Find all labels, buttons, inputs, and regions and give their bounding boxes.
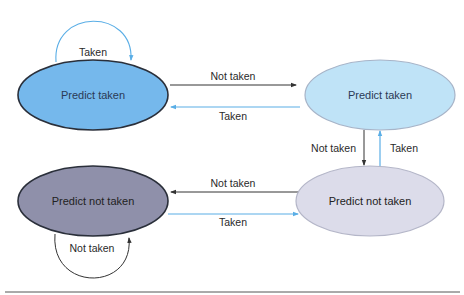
transition-label: Taken bbox=[79, 46, 107, 58]
branch-predictor-state-diagram: Taken Not taken Taken Not taken Taken No… bbox=[0, 0, 464, 295]
state-strongly-taken: Predict taken bbox=[18, 60, 168, 130]
state-label: Predict not taken bbox=[52, 195, 135, 207]
state-weakly-taken: Predict taken bbox=[305, 60, 455, 130]
state-weakly-not-taken: Predict not taken bbox=[296, 166, 444, 236]
transition-label: Taken bbox=[219, 216, 247, 228]
state-label: Predict taken bbox=[61, 89, 125, 101]
transition-label: Not taken bbox=[70, 242, 115, 254]
transition-label: Taken bbox=[390, 142, 418, 154]
state-label: Predict not taken bbox=[329, 195, 412, 207]
transition-label: Not taken bbox=[211, 70, 256, 82]
transition-label: Not taken bbox=[311, 142, 356, 154]
state-strongly-not-taken: Predict not taken bbox=[18, 166, 168, 236]
transition-label: Not taken bbox=[211, 177, 256, 189]
transition-label: Taken bbox=[219, 110, 247, 122]
state-label: Predict taken bbox=[348, 89, 412, 101]
self-loop-not-taken-arrow bbox=[55, 234, 129, 278]
